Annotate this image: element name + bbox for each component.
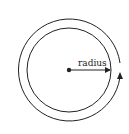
radius-diagram: radius xyxy=(0,0,129,134)
upward-arrowhead-icon xyxy=(117,72,123,79)
radius-label: radius xyxy=(78,58,107,68)
